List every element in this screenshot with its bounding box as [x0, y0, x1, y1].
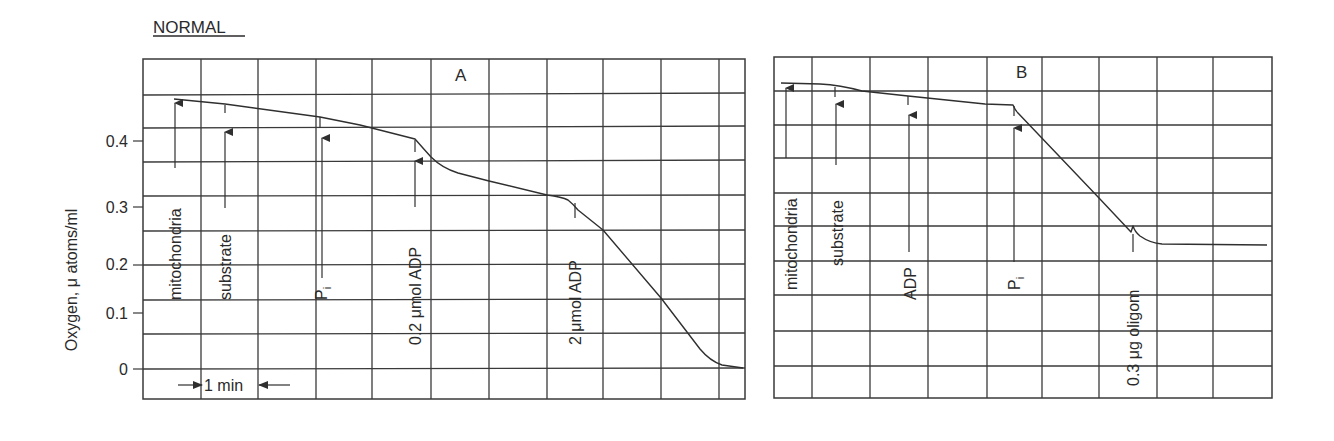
- y-tick-label: 0.3: [106, 199, 128, 216]
- annotation-oligomycin: 0.3 μg oligom: [1125, 290, 1142, 386]
- panel-a: A mitochondria substrate Pi 0.2 μmol ADP…: [143, 59, 745, 399]
- panel-a-label: A: [455, 66, 467, 85]
- panel-b: B mitochondria substrate ADP Pi 0.3 μg o…: [774, 57, 1272, 398]
- panel-a-grid: [143, 59, 745, 399]
- panel-b-label: B: [1016, 63, 1027, 82]
- scale-bar: 1 min: [178, 377, 290, 394]
- panel-b-trace: [781, 83, 1267, 245]
- annotation-pi: Pi: [1006, 277, 1026, 290]
- scale-bar-label: 1 min: [204, 377, 243, 394]
- y-axis-label: Oxygen, μ atoms/ml: [63, 209, 80, 352]
- panel-b-grid: [774, 57, 1272, 398]
- annotation-adp: ADP: [902, 267, 919, 300]
- y-tick-label: 0.1: [106, 305, 128, 322]
- y-axis-ticks: 0.4 0.3 0.2 0.1 0: [106, 133, 143, 378]
- panel-a-annotations: mitochondria substrate Pi 0.2 μmol ADP 2…: [167, 103, 584, 345]
- y-tick-label: 0: [119, 361, 128, 378]
- figure-heading: NORMAL: [153, 18, 226, 37]
- panel-b-frame: [774, 57, 1272, 398]
- annotation-mitochondria: mitochondria: [167, 208, 184, 300]
- y-tick-label: 0.2: [106, 256, 128, 273]
- annotation-0-2-umol-adp: 0.2 μmol ADP: [407, 247, 424, 345]
- annotation-2-umol-adp: 2 μmol ADP: [567, 260, 584, 345]
- figure: NORMAL Oxygen, μ atoms/ml 0.4 0.3 0.2 0.…: [0, 0, 1334, 441]
- panel-a-frame: [143, 59, 745, 399]
- panel-b-annotations: mitochondria substrate ADP Pi 0.3 μg oli…: [783, 87, 1142, 386]
- annotation-substrate: substrate: [217, 234, 234, 300]
- y-tick-label: 0.4: [106, 133, 128, 150]
- annotation-substrate: substrate: [829, 200, 846, 266]
- panel-a-trace: [174, 99, 743, 368]
- annotation-mitochondria: mitochondria: [783, 198, 800, 290]
